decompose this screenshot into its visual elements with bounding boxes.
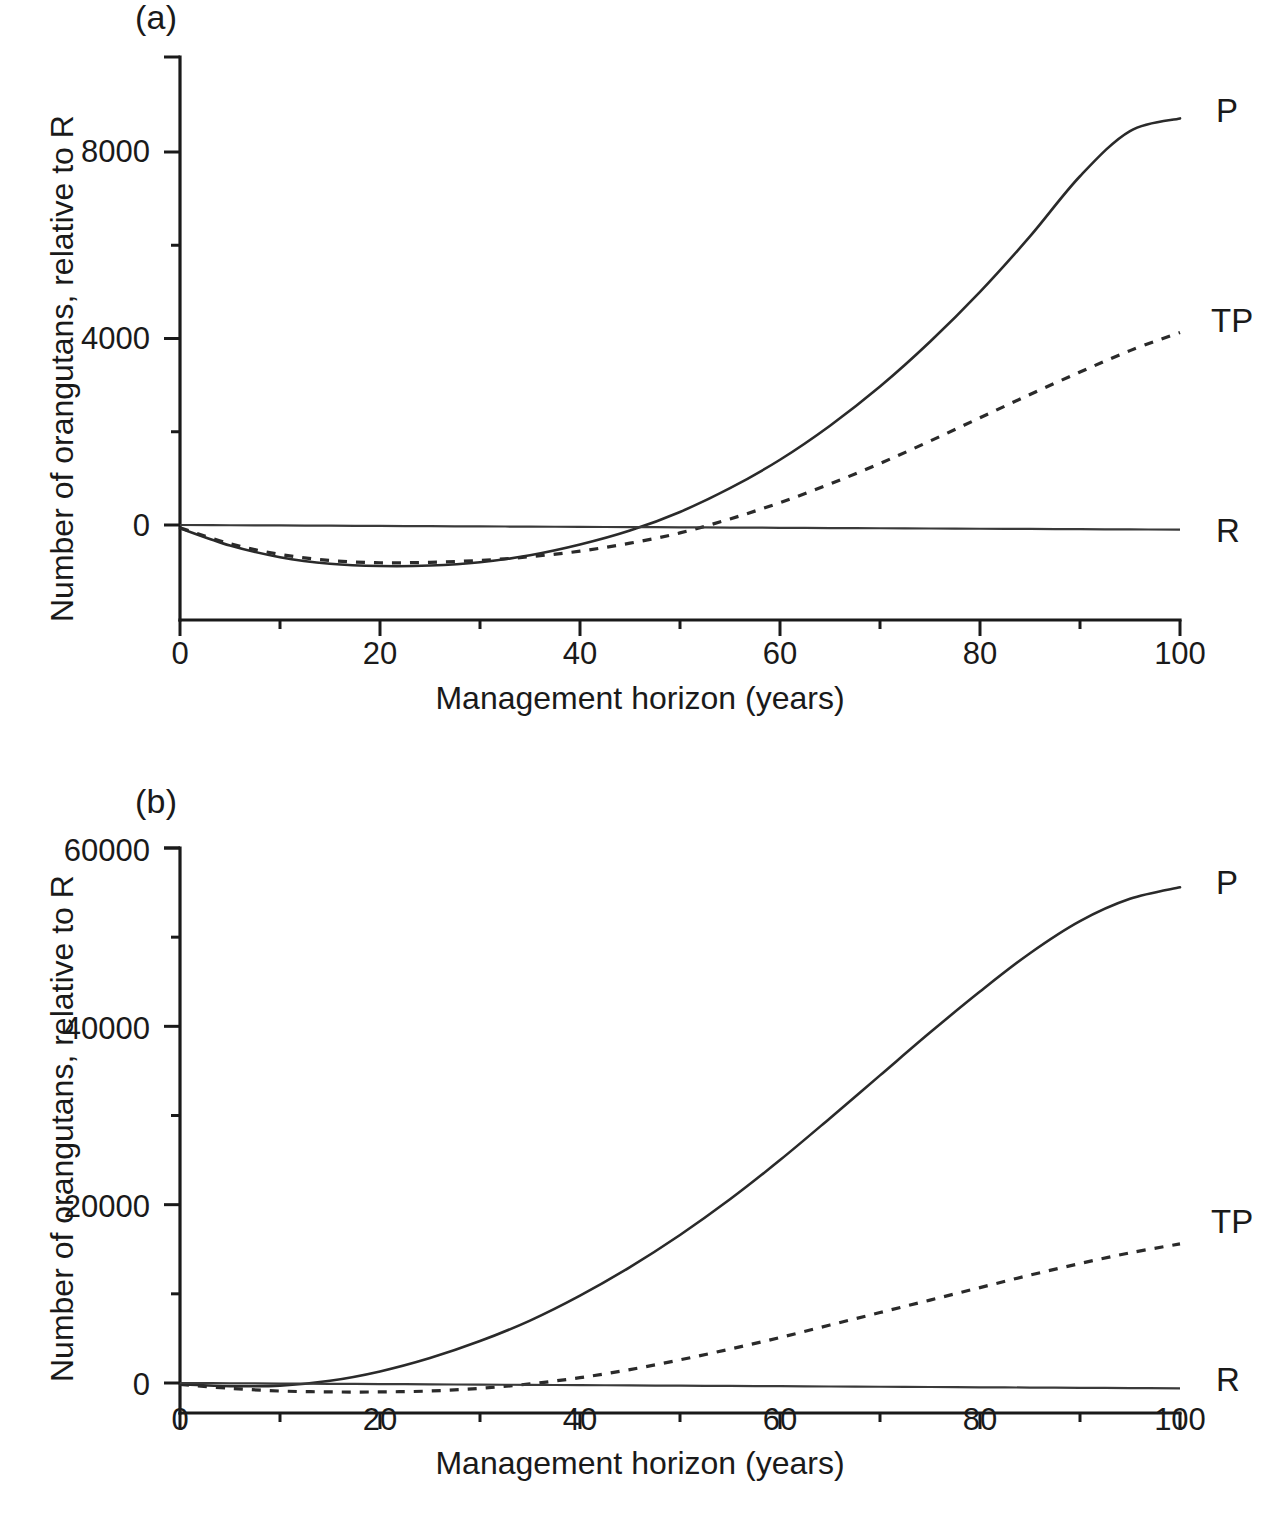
curve-r	[180, 1383, 1180, 1388]
curve-tp	[180, 1244, 1180, 1392]
curve-r	[180, 525, 1180, 530]
figure-orangutan-management-horizon: (a) Number of orangutans, relative to R …	[0, 0, 1278, 1519]
panel-a: (a) Number of orangutans, relative to R …	[0, 0, 1278, 760]
panel-a-plot-area	[0, 0, 1278, 760]
panel-b-plot-area	[0, 760, 1278, 1519]
panel-b: (b) Number of orangutans, relative to R …	[0, 760, 1278, 1519]
curve-p	[180, 887, 1180, 1386]
curve-p	[180, 118, 1180, 566]
